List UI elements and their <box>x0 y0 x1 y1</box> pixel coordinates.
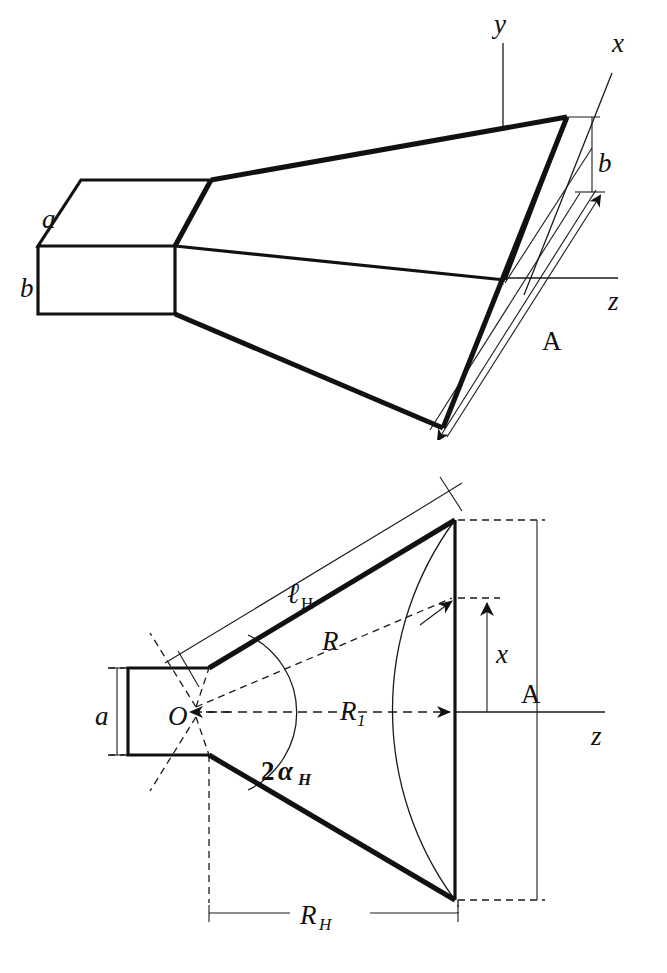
label-plan-x: x <box>495 639 508 669</box>
label-flare-angle-two: 2 <box>261 756 275 786</box>
label-lH-ell: ℓ <box>287 577 299 609</box>
figure-root: a b b A y x z <box>0 0 667 973</box>
label-R1-main: R <box>339 696 357 726</box>
label-plan-A: A <box>521 679 541 709</box>
label-plan-a: a <box>95 701 109 731</box>
label-lH-sub: H <box>301 594 313 613</box>
label-aperture-A: A <box>542 326 562 356</box>
perspective-view-panel: a b b A y x z <box>0 0 667 440</box>
label-RH-main: R <box>299 900 317 930</box>
a-dimension <box>110 668 124 755</box>
label-RH-sub: H <box>318 915 333 934</box>
plan-view-panel: a O ℓ H R R 1 2 α H x A z R H <box>0 435 667 973</box>
label-axis-y: y <box>491 9 506 39</box>
RH-dimension <box>209 905 458 922</box>
label-waveguide-a: a <box>42 204 56 234</box>
label-apex-O: O <box>168 701 188 731</box>
label-axis-x: x <box>611 28 624 58</box>
label-flare-angle-alpha: α <box>278 756 294 786</box>
label-RH: R H <box>299 900 333 934</box>
label-lH: ℓ H <box>287 577 313 613</box>
waveguide-front-face <box>38 246 175 314</box>
label-waveguide-b: b <box>20 273 34 303</box>
label-plan-z: z <box>590 721 602 751</box>
label-aperture-b: b <box>598 148 612 178</box>
label-R: R <box>321 626 339 656</box>
label-R1-sub: 1 <box>357 711 366 730</box>
label-axis-z: z <box>607 286 619 316</box>
label-flare-angle-sub: H <box>297 770 312 789</box>
